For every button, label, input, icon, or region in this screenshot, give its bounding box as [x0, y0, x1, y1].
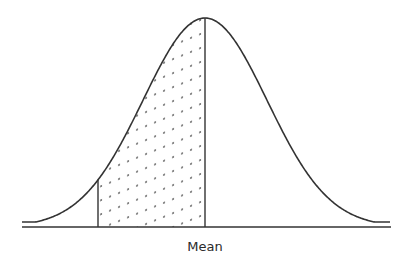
bell-curve: [22, 18, 390, 222]
mean-label: Mean: [187, 239, 222, 254]
shaded-region: [98, 18, 205, 227]
normal-distribution-diagram: [0, 0, 412, 261]
